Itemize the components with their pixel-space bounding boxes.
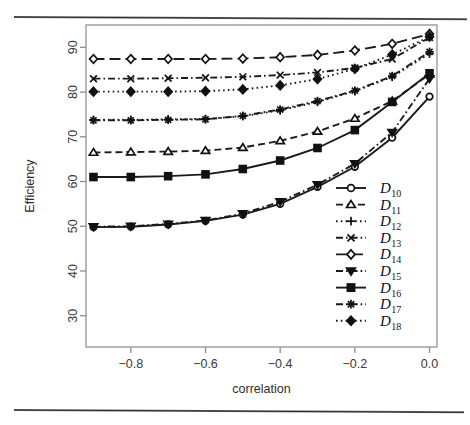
data-point-triangle-down-fill (347, 268, 356, 275)
data-point-diamond-open (164, 55, 172, 64)
data-point-square-fill (239, 166, 246, 173)
legend-item-D15[interactable]: D15 (336, 263, 401, 282)
legend-item-D12[interactable]: D12 (336, 213, 401, 232)
x-tick-label: −0.6 (193, 357, 218, 371)
x-tick-label: 0.0 (421, 357, 438, 371)
x-tick-label: −0.2 (343, 357, 368, 371)
series-D14 (90, 30, 434, 64)
data-point-square-fill (347, 284, 354, 291)
data-point-circle-open (348, 185, 355, 192)
x-axis-title: correlation (232, 382, 290, 396)
series-line-D14 (93, 34, 429, 59)
legend-item-D17[interactable]: D17 (336, 296, 401, 315)
data-point-diamond-open (351, 46, 359, 55)
data-point-triangle-up-open (201, 147, 209, 154)
series-line-D17 (93, 52, 429, 120)
x-axis: −0.8−0.6−0.4−0.20.0 (118, 347, 438, 371)
data-point-diamond-fill (127, 87, 135, 96)
data-point-diamond-open (276, 53, 284, 62)
data-point-triangle-up-open (347, 201, 356, 208)
x-tick-label: −0.4 (268, 357, 293, 371)
data-point-triangle-up-open (127, 148, 135, 155)
data-point-square-fill (389, 98, 396, 105)
data-point-diamond-open (127, 55, 135, 64)
y-tick-label: 50 (66, 219, 80, 233)
efficiency-vs-correlation-chart: 30405060708090 −0.8−0.6−0.4−0.20.0 D10D1… (0, 0, 470, 425)
data-point-triangle-up-open (239, 144, 247, 151)
x-tick-label: −0.8 (118, 357, 143, 371)
data-point-square-fill (277, 157, 284, 164)
data-point-square-fill (202, 171, 209, 178)
data-point-diamond-open (202, 55, 210, 64)
data-point-triangle-up-open (313, 128, 321, 135)
chart-legend: D10D11D12D13D14D15D16D17D18 (336, 180, 401, 332)
data-point-square-fill (426, 70, 433, 77)
legend-item-D14[interactable]: D14 (336, 246, 401, 265)
legend-item-D13[interactable]: D13 (336, 230, 401, 249)
data-point-diamond-fill (347, 316, 355, 325)
data-point-diamond-fill (276, 81, 284, 90)
legend-item-D11[interactable]: D11 (336, 197, 401, 216)
y-tick-label: 30 (66, 309, 80, 323)
data-point-diamond-open (347, 250, 355, 259)
data-point-triangle-up-open (351, 115, 359, 122)
data-point-diamond-open (314, 51, 322, 60)
data-point-diamond-open (388, 39, 396, 48)
data-point-diamond-fill (164, 87, 172, 96)
y-tick-label: 80 (66, 85, 80, 99)
legend-item-D10[interactable]: D10 (336, 180, 401, 199)
legend-label-D18: D18 (379, 313, 401, 332)
data-point-triangle-up-open (89, 149, 97, 156)
data-point-square-fill (165, 173, 172, 180)
series-D18 (89, 32, 433, 96)
series-line-D18 (93, 37, 429, 92)
data-point-diamond-fill (201, 87, 209, 96)
legend-item-D16[interactable]: D16 (336, 280, 401, 299)
data-point-diamond-open (239, 54, 247, 63)
data-point-diamond-fill (239, 85, 247, 94)
series-line-D16 (93, 73, 429, 177)
data-point-triangle-up-open (164, 148, 172, 155)
data-point-square-fill (127, 174, 134, 181)
data-point-square-fill (351, 127, 358, 134)
y-axis: 30405060708090 (66, 40, 86, 322)
y-axis-title: Efficiency (23, 159, 37, 213)
y-tick-label: 90 (66, 40, 80, 54)
data-point-square-fill (314, 145, 321, 152)
y-tick-label: 60 (66, 175, 80, 189)
legend-item-D18[interactable]: D18 (336, 313, 401, 332)
data-point-circle-open (426, 93, 433, 100)
data-point-triangle-up-open (276, 137, 284, 144)
data-point-diamond-fill (89, 87, 97, 96)
y-tick-label: 40 (66, 264, 80, 278)
figure-container: 30405060708090 −0.8−0.6−0.4−0.20.0 D10D1… (0, 0, 470, 425)
data-point-diamond-open (90, 55, 98, 64)
axis-titles: correlationEfficiency (23, 159, 291, 396)
y-tick-label: 70 (66, 130, 80, 144)
data-point-square-fill (90, 174, 97, 181)
